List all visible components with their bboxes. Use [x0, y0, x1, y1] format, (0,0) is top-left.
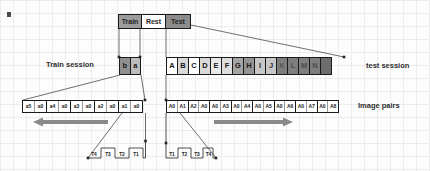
left-arrow: [33, 118, 108, 127]
right-arrow: [214, 118, 293, 127]
diagram-overlay: T4 T3 T2 T1 T1 T2 T3 T4: [0, 0, 430, 171]
wave-label: T2: [182, 152, 188, 157]
wave-label: T1: [169, 152, 175, 157]
wave-labels: T4 T3 T2 T1 T1 T2 T3 T4: [91, 152, 211, 157]
wave-label: T4: [91, 152, 97, 157]
wave-label: T2: [119, 152, 125, 157]
wave-label: T1: [133, 152, 139, 157]
protocol-diagram: Train Rest Test Train session test sessi…: [0, 0, 430, 171]
direction-arrows: [33, 118, 293, 127]
wave-label: T3: [194, 152, 200, 157]
connector-lines: [23, 25, 344, 158]
wave-label: T3: [105, 152, 111, 157]
wave-label: T4: [206, 152, 212, 157]
junction-dots: [87, 56, 346, 160]
